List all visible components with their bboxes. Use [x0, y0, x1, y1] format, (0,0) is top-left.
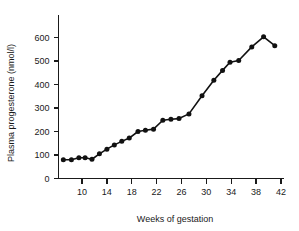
series-data-point [160, 118, 165, 123]
y-tick-label: 500 [34, 56, 49, 66]
y-tick-label: 600 [34, 33, 49, 43]
series-data-point [76, 155, 81, 160]
x-tick-label: 38 [251, 187, 261, 197]
y-axis-ticks: 0100200300400500600 [34, 33, 58, 184]
chart-figure: 0100200300400500600 101418222630343842 W… [0, 0, 299, 231]
x-tick-label: 18 [127, 187, 137, 197]
series-data-point [200, 93, 205, 98]
series-data-point [104, 147, 109, 152]
y-tick-label: 100 [34, 150, 49, 160]
series-data-point [177, 116, 182, 121]
x-tick-label: 30 [201, 187, 211, 197]
chart-plot-area: 0100200300400500600 101418222630343842 W… [0, 0, 299, 231]
data-series [61, 34, 277, 162]
series-data-point [186, 111, 191, 116]
series-data-point [228, 60, 233, 65]
series-data-point [261, 34, 266, 39]
series-data-point [61, 157, 66, 162]
series-data-point [119, 139, 124, 144]
series-data-point [249, 44, 254, 49]
series-data-point [135, 129, 140, 134]
x-tick-label: 22 [152, 187, 162, 197]
series-data-point [236, 58, 241, 63]
series-data-point [143, 128, 148, 133]
series-data-point [69, 157, 74, 162]
series-data-point [97, 151, 102, 156]
series-data-point [127, 136, 132, 141]
series-data-point [168, 117, 173, 122]
series-data-point [83, 155, 88, 160]
y-tick-label: 0 [44, 174, 49, 184]
x-tick-label: 14 [102, 187, 112, 197]
x-tick-label: 42 [276, 187, 286, 197]
x-tick-label: 26 [176, 187, 186, 197]
series-data-point [112, 142, 117, 147]
y-tick-label: 300 [34, 103, 49, 113]
series-data-point [89, 157, 94, 162]
x-tick-label: 10 [77, 187, 87, 197]
series-data-point [151, 127, 156, 132]
y-tick-label: 400 [34, 80, 49, 90]
series-data-point [211, 78, 216, 83]
series-line [63, 37, 274, 160]
axes [59, 15, 285, 179]
series-data-point [272, 43, 277, 48]
series-data-point [220, 68, 225, 73]
y-axis-title: Plasma progesterone (nmol/l) [6, 44, 16, 162]
x-tick-label: 34 [226, 187, 236, 197]
x-axis-ticks: 101418222630343842 [77, 179, 286, 197]
y-tick-label: 200 [34, 127, 49, 137]
x-axis-title: Weeks of gestation [137, 214, 213, 224]
